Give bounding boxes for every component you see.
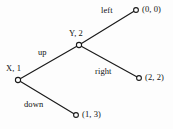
- edge-label-left: left: [101, 6, 113, 15]
- terminal-node-mid-circle: [137, 76, 142, 81]
- node-label-x: X, 1: [6, 64, 21, 73]
- edge-label-up: up: [38, 48, 47, 57]
- node-label-y: Y, 2: [69, 29, 83, 38]
- edge-up-line: [18, 45, 79, 80]
- payoff-label-mid: (2, 2): [145, 73, 164, 82]
- game-tree-figure: X, 1 Y, 2 up down left right (0, 0) (2, …: [0, 0, 173, 129]
- payoff-label-bottom: (1, 3): [82, 110, 101, 119]
- edge-left-line: [79, 10, 136, 45]
- node-x-circle: [15, 77, 20, 82]
- edge-label-right: right: [95, 67, 112, 76]
- edge-down-line: [18, 80, 76, 115]
- node-y-circle: [76, 42, 81, 47]
- terminal-node-top-circle: [134, 8, 139, 13]
- edge-label-down: down: [24, 100, 43, 109]
- payoff-label-top: (0, 0): [142, 5, 161, 14]
- terminal-node-bottom-circle: [74, 113, 79, 118]
